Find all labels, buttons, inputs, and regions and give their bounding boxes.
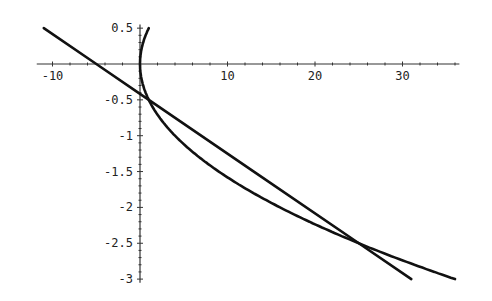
x-tick-label: 10 bbox=[220, 69, 234, 83]
y-tick-label: -0.5 bbox=[104, 93, 133, 107]
parabola-series bbox=[140, 28, 455, 279]
y-tick-label: -2 bbox=[119, 200, 133, 214]
x-tick-label: 30 bbox=[395, 69, 409, 83]
axes bbox=[37, 25, 460, 283]
y-tick-label: -1 bbox=[119, 129, 133, 143]
y-tick-label: -3 bbox=[119, 272, 133, 286]
chart: -101020300.5-0.5-1-1.5-2-2.5-3 bbox=[0, 0, 492, 301]
y-tick-label: 0.5 bbox=[111, 21, 133, 35]
x-tick-label: -10 bbox=[42, 69, 64, 83]
x-tick-label: 20 bbox=[308, 69, 322, 83]
y-tick-label: -2.5 bbox=[104, 236, 133, 250]
y-tick-label: -1.5 bbox=[104, 165, 133, 179]
